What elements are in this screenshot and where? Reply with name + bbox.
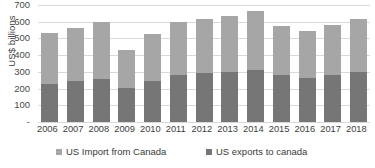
bar-segment-import[interactable] (221, 16, 238, 71)
bar-segment-export[interactable] (324, 75, 341, 122)
square-swatch-icon (206, 149, 212, 155)
bar-segment-export[interactable] (247, 70, 264, 122)
bar-2007[interactable] (67, 5, 84, 122)
legend-item[interactable]: US exports to canada (206, 146, 307, 157)
bar-segment-export[interactable] (170, 75, 187, 122)
bar-2011[interactable] (170, 5, 187, 122)
bar-segment-export[interactable] (221, 72, 238, 122)
x-axis-tick-label: 2009 (114, 124, 131, 137)
x-axis-tick-labels: 2006200720082009201020112012201320142015… (38, 124, 370, 137)
bar-2012[interactable] (196, 5, 213, 122)
bar-2014[interactable] (247, 5, 264, 122)
x-axis-tick-label: 2011 (166, 124, 183, 137)
bar-group (38, 5, 370, 122)
legend-item-label: US Import from Canada (66, 146, 166, 157)
bar-2008[interactable] (93, 5, 110, 122)
y-axis-tick-label: 700 (4, 0, 30, 10)
bar-segment-import[interactable] (144, 34, 161, 80)
y-axis-tick-label: 500 (4, 32, 30, 43)
bar-segment-export[interactable] (41, 84, 58, 122)
bar-segment-import[interactable] (67, 28, 84, 81)
chart-legend: US Import from CanadaUS exports to canad… (38, 146, 370, 160)
y-axis-tick-label: 600 (4, 16, 30, 27)
bar-segment-import[interactable] (196, 19, 213, 73)
bar-segment-import[interactable] (350, 19, 367, 72)
bar-segment-export[interactable] (93, 79, 110, 122)
x-axis-tick-label: 2018 (346, 124, 363, 137)
x-axis-tick-label: 2016 (295, 124, 312, 137)
bar-segment-export[interactable] (118, 88, 135, 122)
bar-2013[interactable] (221, 5, 238, 122)
bar-segment-export[interactable] (196, 73, 213, 122)
bar-2017[interactable] (324, 5, 341, 122)
bar-2010[interactable] (144, 5, 161, 122)
bar-segment-export[interactable] (144, 81, 161, 122)
bar-segment-export[interactable] (350, 72, 367, 122)
bar-segment-export[interactable] (67, 81, 84, 122)
bar-segment-import[interactable] (324, 25, 341, 75)
bar-segment-export[interactable] (299, 78, 316, 122)
square-swatch-icon (56, 149, 62, 155)
bar-segment-import[interactable] (118, 50, 135, 87)
x-axis-tick-label: 2007 (63, 124, 80, 137)
bar-segment-import[interactable] (299, 31, 316, 77)
bar-segment-import[interactable] (247, 11, 264, 70)
x-axis-tick-label: 2014 (243, 124, 260, 137)
x-axis-tick-label: 2008 (89, 124, 106, 137)
bar-2006[interactable] (41, 5, 58, 122)
y-axis-tick-label: 200 (4, 83, 30, 94)
x-axis-tick-label: 2006 (37, 124, 54, 137)
y-axis-tick-label: - (4, 116, 30, 127)
legend-item[interactable]: US Import from Canada (56, 146, 166, 157)
x-axis-tick-label: 2017 (320, 124, 337, 137)
bar-segment-export[interactable] (273, 75, 290, 122)
legend-item-label: US exports to canada (216, 146, 307, 157)
gridline (38, 122, 370, 123)
plot-area: 700600500400300200100- (38, 5, 370, 122)
bar-2016[interactable] (299, 5, 316, 122)
x-axis-tick-label: 2010 (140, 124, 157, 137)
bar-2018[interactable] (350, 5, 367, 122)
stacked-bar-chart: US$ billions 700600500400300200100- 2006… (0, 0, 375, 168)
bar-segment-import[interactable] (170, 22, 187, 75)
bar-segment-import[interactable] (93, 22, 110, 79)
bar-2015[interactable] (273, 5, 290, 122)
bar-2009[interactable] (118, 5, 135, 122)
y-axis-tick-label: 300 (4, 66, 30, 77)
y-axis-tick-label: 400 (4, 49, 30, 60)
x-axis-tick-label: 2015 (269, 124, 286, 137)
bar-segment-import[interactable] (273, 26, 290, 75)
y-axis-tick-label: 100 (4, 99, 30, 110)
x-axis-tick-label: 2012 (192, 124, 209, 137)
bar-segment-import[interactable] (41, 33, 58, 83)
x-axis-tick-label: 2013 (217, 124, 234, 137)
